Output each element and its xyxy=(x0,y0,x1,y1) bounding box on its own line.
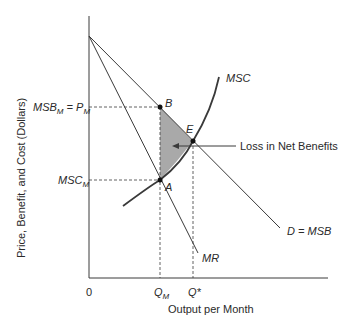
y-tick-msb-m: MSBM = PM xyxy=(33,101,90,116)
label-msc: MSC xyxy=(226,72,251,84)
label-demand: D = MSB xyxy=(287,225,331,237)
y-axis-title: Price, Benefit, and Cost (Dollars) xyxy=(15,98,27,258)
label-e: E xyxy=(186,123,194,135)
x-tick-q-m: QM xyxy=(154,286,170,301)
x-tick-q-star: Q* xyxy=(188,286,202,298)
x-axis-title: Output per Month xyxy=(168,303,254,315)
demand-msb-curve xyxy=(89,36,280,228)
origin-label: 0 xyxy=(86,286,92,298)
loss-annotation: Loss in Net Benefits xyxy=(240,140,338,152)
label-a: A xyxy=(164,181,172,193)
label-mr: MR xyxy=(202,252,219,264)
y-tick-msc-m: MSCM xyxy=(58,174,89,189)
diagram-canvas: B A E MSC D = MSB MR Loss in Net Benefit… xyxy=(0,0,349,331)
point-a xyxy=(158,178,163,183)
point-b xyxy=(158,105,163,110)
point-e xyxy=(191,139,196,144)
label-b: B xyxy=(165,97,172,109)
deadweight-loss-area xyxy=(160,107,193,180)
